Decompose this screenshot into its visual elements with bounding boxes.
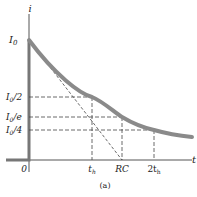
origin-label: 0	[21, 164, 27, 174]
dashed-guides	[29, 97, 154, 160]
figure-caption: (a)	[99, 181, 110, 190]
x-tick-th: th	[88, 164, 96, 175]
x-tick-2th: 2th	[147, 164, 160, 175]
decay-curve	[29, 40, 192, 137]
y-tick-I0-half: I0/2	[5, 92, 22, 103]
x-axis-label: t	[192, 154, 197, 165]
y-tick-I0-quarter: I0/4	[5, 125, 22, 136]
rc-decay-diagram: i t 0 I0 I0/2 I0/e I0/4 th RC 2th (a)	[0, 0, 197, 197]
y-tick-I0-e: I0/e	[5, 112, 22, 123]
x-tick-RC: RC	[114, 164, 129, 174]
y-axis-label: i	[28, 3, 31, 14]
y-tick-I0: I0	[8, 34, 18, 47]
